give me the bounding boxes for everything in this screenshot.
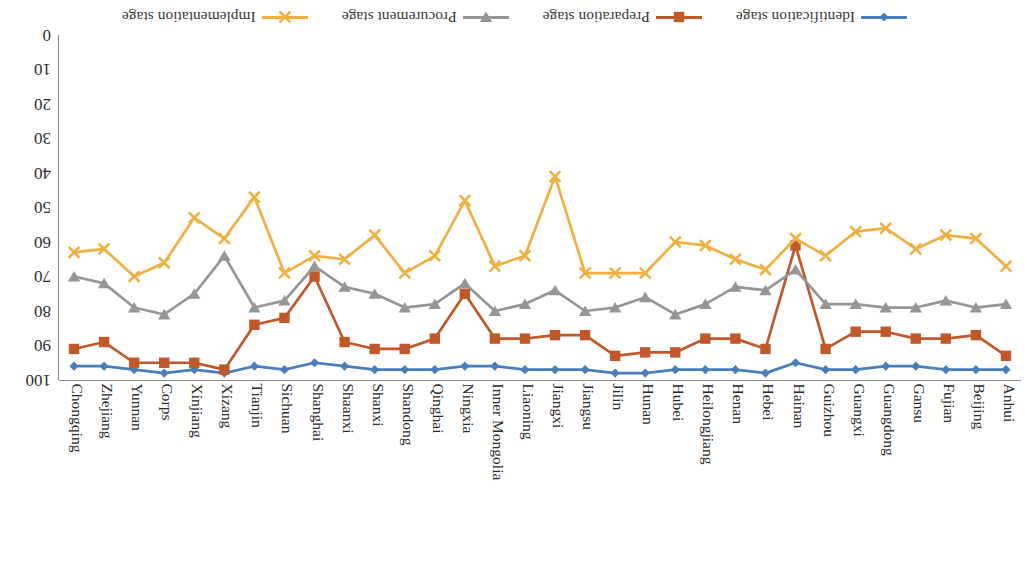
series-procurement-stage [68, 250, 1012, 319]
x-tick-label: Jiangsu [580, 384, 596, 431]
series-identification-stage [69, 358, 1010, 378]
chart-legend: Identification stagePreparation stagePro… [0, 0, 1029, 35]
y-tick-label: 60 [34, 234, 51, 251]
y-tick-label: 50 [34, 199, 51, 216]
x-tick-label: Henan [730, 384, 746, 424]
x-tick-label: Guangdong [881, 384, 897, 456]
legend-marker-square-icon [656, 11, 702, 25]
legend-label: Identification stage [736, 10, 855, 26]
y-tick-label: 10 [34, 61, 51, 78]
x-tick-label: Beijing [971, 384, 987, 430]
legend-marker-triangle-icon [463, 11, 509, 25]
series-preparation-stage [69, 240, 1011, 375]
x-tick-label: Xizang [219, 384, 235, 429]
series-layer [59, 35, 1021, 380]
y-tick-label: 100 [26, 372, 52, 389]
legend-item-identification-stage[interactable]: Identification stage [736, 10, 907, 26]
x-tick-label: Hebei [760, 384, 776, 421]
legend-item-implementation-stage[interactable]: Implementation stage [122, 10, 308, 26]
x-tick-label: Corps [159, 384, 175, 421]
x-axis-category-labels: AnhuiBeijingFujianGansuGuangdongGuangxiG… [59, 380, 1021, 583]
x-tick-label: Tianjin [249, 384, 265, 428]
x-tick-label: Fujian [941, 384, 957, 424]
x-tick-label: Ningxia [460, 384, 476, 434]
legend-label: Preparation stage [543, 10, 650, 26]
x-tick-label: Anhui [1001, 384, 1017, 423]
x-tick-label: Shanxi [370, 384, 386, 427]
x-tick-label: Guizhou [821, 384, 837, 437]
legend-label: Implementation stage [122, 10, 256, 26]
x-tick-label: Heilongjiang [700, 384, 716, 465]
x-tick-label: Chongqing [69, 384, 85, 453]
x-tick-label: Guangxi [851, 384, 867, 437]
y-axis-tick-labels: 0102030405060708090100 [2, 35, 57, 380]
x-tick-label: Shandong [400, 384, 416, 446]
x-tick-label: Shaanxi [340, 384, 356, 434]
legend-item-procurement-stage[interactable]: Procurement stage [342, 10, 509, 26]
x-tick-label: Shanghai [310, 384, 326, 442]
y-tick-label: 40 [34, 165, 51, 182]
x-tick-label: Inner Mongolia [490, 384, 506, 481]
x-tick-label: Jiangxi [550, 384, 566, 429]
y-tick-label: 30 [34, 130, 51, 147]
plot-area [59, 35, 1021, 380]
x-tick-label: Hainan [791, 384, 807, 429]
rotated-chart-container: AnhuiBeijingFujianGansuGuangdongGuangxiG… [0, 0, 1029, 583]
x-tick-label: Liaoning [520, 384, 536, 440]
x-tick-label: Qinghai [430, 384, 446, 434]
x-tick-label: Sichuan [279, 384, 295, 434]
y-tick-label: 70 [34, 268, 51, 285]
y-tick-label: 80 [34, 303, 51, 320]
series-implementation-stage [69, 171, 1012, 282]
legend-item-preparation-stage[interactable]: Preparation stage [543, 10, 702, 26]
x-tick-label: Xinjiang [189, 384, 205, 438]
x-tick-label: Jilin [610, 384, 626, 411]
chart-screenshot: AnhuiBeijingFujianGansuGuangdongGuangxiG… [0, 0, 1029, 583]
x-tick-label: Gansu [911, 384, 927, 424]
x-tick-label: Zhejiang [99, 384, 115, 439]
x-tick-label: Hunan [640, 384, 656, 425]
y-tick-label: 90 [34, 337, 51, 354]
x-axis-line [59, 380, 1021, 381]
legend-label: Procurement stage [342, 10, 457, 26]
legend-marker-cross-icon [262, 11, 308, 25]
y-tick-label: 20 [34, 96, 51, 113]
x-tick-label: Yunnan [129, 384, 145, 431]
legend-marker-diamond-icon [861, 11, 907, 25]
x-tick-label: Hubei [670, 384, 686, 422]
